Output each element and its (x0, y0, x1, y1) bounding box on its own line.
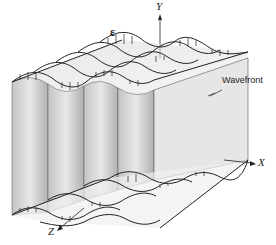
electric-field-label: ε (110, 26, 115, 38)
wavefront-diagram: Y X Z ε Wavefront (0, 0, 276, 245)
wavefront-label: Wavefront (222, 76, 263, 85)
y-axis-label: Y (156, 1, 162, 12)
x-axis-label: X (258, 157, 265, 168)
wavefront-illustration (0, 0, 276, 245)
z-axis-label: Z (48, 226, 54, 237)
